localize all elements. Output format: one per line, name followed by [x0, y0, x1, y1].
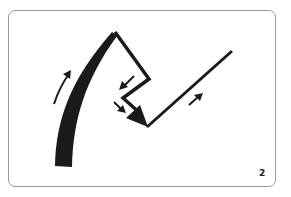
card-number: 2: [259, 168, 265, 178]
curved-arrow-up-icon: [54, 70, 71, 104]
arrow-up-right-icon: [189, 93, 203, 105]
large-arrowhead-icon: [126, 105, 148, 127]
zigzag-path: [115, 32, 149, 115]
thick-curved-stroke: [55, 32, 117, 167]
movement-diagram: [0, 0, 291, 197]
diagonal-line: [147, 51, 232, 127]
arrow-down-left-icon: [119, 76, 134, 90]
arrow-down-right-icon: [114, 102, 126, 113]
